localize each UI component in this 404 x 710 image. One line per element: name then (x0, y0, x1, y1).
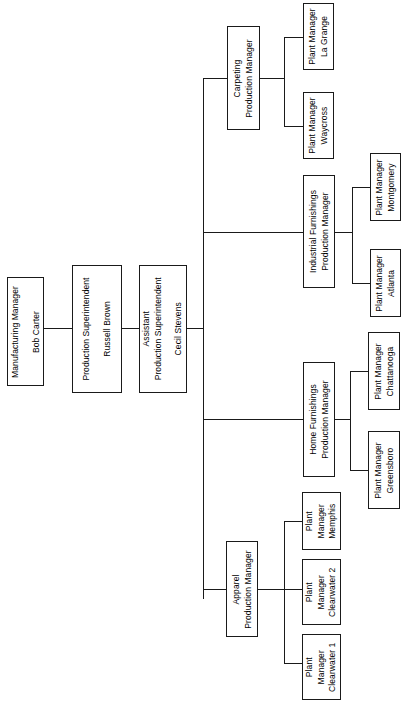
connector-carpeting-stem (260, 78, 284, 79)
node-line1: Industrial Furnishings (308, 190, 320, 273)
node-line1: Plant Manager (307, 97, 319, 154)
node-line3: Clearwater 1 (327, 642, 339, 691)
connector-home-bus (350, 371, 351, 470)
node-line1: Carpeting (232, 39, 244, 117)
node-plant-clearwater-1-text: Plant Manager Clearwater 1 (304, 642, 339, 691)
node-line2: Production Manager (244, 39, 256, 117)
connector-trunk-to-apparel (203, 589, 226, 590)
node-line1: Home Furnishings (308, 380, 320, 458)
node-person: Russell Brown (102, 277, 114, 380)
node-manufacturing-manager[interactable]: Manufacturing Manager Bob Carter (7, 277, 44, 386)
node-line2: Manager (316, 503, 328, 538)
node-person: Cecil Stevens (173, 277, 185, 380)
node-plant-manager-clearwater-1[interactable]: Plant Manager Clearwater 1 (302, 634, 341, 700)
node-title-line2: Production Superintendent (153, 277, 165, 380)
node-line3: Clearwater 2 (327, 567, 339, 616)
connector-trunk-to-home (203, 419, 303, 420)
node-line2: Greensboro (384, 442, 396, 499)
node-line2: Production Manager (242, 550, 254, 628)
node-title: Production Superintendent (81, 277, 93, 380)
node-plant-clearwater-2-text: Plant Manager Clearwater 2 (304, 567, 339, 616)
connector-home-to-greensboro (350, 470, 368, 471)
connector-carpeting-to-lagrange (284, 37, 303, 38)
connector-industrial-bus (352, 187, 353, 283)
node-plant-manager-waycross[interactable]: Plant Manager Waycross (303, 92, 334, 159)
node-line1: Plant (304, 642, 316, 691)
connector-aps-to-trunk (187, 328, 203, 329)
node-line2: Manager (316, 642, 328, 691)
node-line2: Production Manager (319, 190, 331, 273)
node-line1: Plant Manager (374, 255, 386, 312)
connector-apparel-to-memphis (284, 521, 302, 522)
connector-trunk-to-industrial (203, 232, 303, 233)
node-line2: Montgomery (386, 159, 398, 216)
connector-apparel-bus (284, 521, 285, 663)
node-line2: La Grange (319, 8, 331, 65)
node-plant-memphis-text: Plant Manager Memphis (304, 503, 339, 538)
node-industrial-furnishings-text: Industrial Furnishings Production Manage… (308, 190, 331, 273)
node-production-superintendent[interactable]: Production Superintendent Russell Brown (72, 265, 122, 393)
node-plant-manager-montgomery[interactable]: Plant Manager Montgomery (370, 153, 401, 221)
node-plant-manager-clearwater-2[interactable]: Plant Manager Clearwater 2 (302, 559, 341, 625)
node-line2: Production Manager (319, 380, 331, 458)
node-line1: Plant (304, 503, 316, 538)
node-line3: Memphis (327, 503, 339, 538)
node-line1: Plant Manager (373, 343, 385, 400)
node-home-furnishings-production-manager[interactable]: Home Furnishings Production Manager (303, 362, 335, 477)
node-assistant-production-superintendent-text: Assistant Production Superintendent Ceci… (141, 277, 185, 380)
node-plant-waycross-text: Plant Manager Waycross (307, 97, 330, 154)
node-line1: Plant (304, 567, 316, 616)
node-assistant-production-superintendent[interactable]: Assistant Production Superintendent Ceci… (139, 265, 187, 393)
node-manufacturing-manager-text: Manufacturing Manager Bob Carter (10, 286, 42, 378)
connector-home-to-chattanooga (350, 371, 368, 372)
node-line1: Plant Manager (373, 442, 385, 499)
node-industrial-furnishings-production-manager[interactable]: Industrial Furnishings Production Manage… (303, 175, 335, 288)
connector-industrial-stem (335, 232, 352, 233)
connector-trunk-vertical (203, 78, 204, 599)
node-plant-manager-greensboro[interactable]: Plant Manager Greensboro (368, 431, 400, 509)
node-plant-manager-la-grange[interactable]: Plant Manager La Grange (303, 3, 334, 70)
node-plant-montgomery-text: Plant Manager Montgomery (374, 159, 397, 216)
node-line2: Chattanooga (384, 343, 396, 400)
connector-carpeting-to-waycross (284, 126, 303, 127)
node-plant-chattanooga-text: Plant Manager Chattanooga (373, 343, 396, 400)
node-title-line1: Assistant (141, 277, 153, 380)
connector-industrial-to-atlanta (352, 283, 370, 284)
node-home-furnishings-text: Home Furnishings Production Manager (308, 380, 331, 458)
connector-carpeting-bus (284, 37, 285, 126)
connector-trunk-to-carpeting (203, 78, 227, 79)
connector-mm-to-ps (43, 328, 72, 329)
org-chart: Manufacturing Manager Bob Carter Product… (0, 0, 404, 710)
node-plant-manager-chattanooga[interactable]: Plant Manager Chattanooga (368, 332, 400, 410)
node-plant-greensboro-text: Plant Manager Greensboro (373, 442, 396, 499)
node-line2: Atlanta (386, 255, 398, 312)
node-person: Bob Carter (30, 286, 42, 378)
connector-apparel-to-clearwater1 (284, 663, 302, 664)
node-plant-la-grange-text: Plant Manager La Grange (307, 8, 330, 65)
node-line1: Plant Manager (307, 8, 319, 65)
node-apparel-production-manager[interactable]: Apparel Production Manager (226, 541, 258, 637)
node-line2: Waycross (319, 97, 331, 154)
connector-ps-to-aps (122, 328, 139, 329)
node-plant-manager-atlanta[interactable]: Plant Manager Atlanta (370, 249, 401, 317)
node-plant-atlanta-text: Plant Manager Atlanta (374, 255, 397, 312)
node-line1: Apparel (231, 550, 243, 628)
connector-apparel-to-clearwater2 (284, 589, 302, 590)
node-production-superintendent-text: Production Superintendent Russell Brown (81, 277, 113, 380)
node-carpeting-production-manager[interactable]: Carpeting Production Manager (227, 26, 260, 130)
node-plant-manager-memphis[interactable]: Plant Manager Memphis (302, 492, 341, 550)
connector-industrial-to-montgomery (352, 187, 370, 188)
connector-home-stem (335, 419, 350, 420)
node-title: Manufacturing Manager (10, 286, 22, 378)
node-line1: Plant Manager (374, 159, 386, 216)
node-line2: Manager (316, 567, 328, 616)
node-apparel-text: Apparel Production Manager (231, 550, 254, 628)
connector-apparel-stem (258, 589, 284, 590)
node-carpeting-text: Carpeting Production Manager (232, 39, 255, 117)
